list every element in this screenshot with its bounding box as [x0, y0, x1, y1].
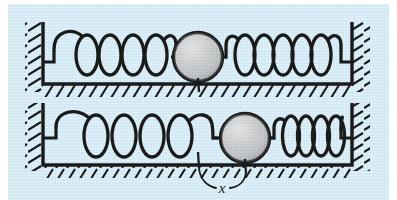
- panel-top-equilibrium: [25, 22, 370, 97]
- displacement-label-x: x: [218, 180, 226, 196]
- physics-diagram-figure: x: [0, 0, 397, 200]
- top-ball-center-tick: [198, 78, 199, 92]
- top-left-spring: [54, 31, 190, 75]
- bottom-right-wall-hatching: [352, 103, 370, 171]
- bottom-left-anchor-bracket: [43, 127, 56, 138]
- bottom-left-wall-hatching: [25, 103, 43, 171]
- diagram-canvas: x: [0, 0, 397, 200]
- top-right-wall-hatching: [352, 22, 370, 92]
- bottom-ball: [221, 114, 270, 163]
- displacement-ball-tick: [245, 159, 246, 173]
- bottom-left-spring-stretched: [56, 112, 218, 157]
- top-ball: [174, 33, 223, 82]
- top-right-spring: [221, 35, 341, 75]
- displacement-origin-tick: [198, 152, 199, 168]
- panel-bottom-displaced: x: [25, 103, 370, 196]
- top-left-wall-hatching: [25, 22, 43, 92]
- bottom-right-spring-compressed: [268, 116, 345, 156]
